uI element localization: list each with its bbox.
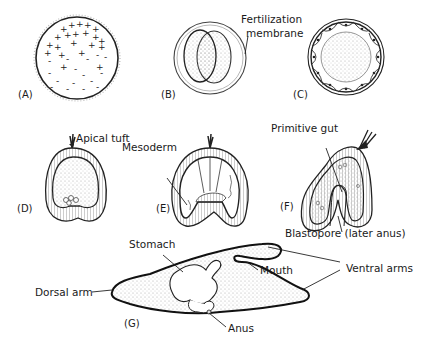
label-primitive-gut: Primitive gut: [271, 122, 338, 134]
panel-tag-a: (A): [18, 89, 33, 101]
svg-text:-: -: [82, 70, 85, 80]
embryo-development-diagram: +++++ ++++++ +++++ +++- ---- +-+ --- ---…: [0, 0, 425, 345]
svg-text:-: -: [96, 82, 99, 92]
panel-tag-f: (F): [280, 201, 294, 213]
panel-f-primitive-gut: [301, 130, 376, 232]
svg-text:+: +: [70, 38, 78, 48]
label-stomach: Stomach: [129, 238, 175, 250]
label-blastopore: Blastopore (later anus): [285, 227, 406, 239]
panel-a-egg: +++++ ++++++ +++++ +++- ---- +-+ --- ---…: [34, 15, 120, 101]
panel-c-blastula: [308, 19, 384, 95]
label-fertilization-membrane-line1: Fertilization: [241, 13, 302, 25]
label-ventral-arms: Ventral arms: [346, 262, 413, 274]
svg-text:+: +: [78, 48, 86, 58]
label-mouth: Mouth: [260, 264, 293, 276]
svg-text:-: -: [90, 76, 93, 86]
svg-text:+: +: [54, 32, 62, 42]
label-dorsal-arm: Dorsal arm: [35, 286, 93, 298]
panel-d-gastrula: [46, 134, 107, 221]
svg-text:-: -: [66, 84, 69, 94]
svg-text:+: +: [60, 62, 68, 72]
svg-text:-: -: [104, 52, 107, 62]
svg-text:+: +: [58, 50, 66, 60]
svg-text:-: -: [72, 78, 75, 88]
label-anus: Anus: [228, 322, 254, 334]
label-fertilization-membrane-line2: membrane: [246, 27, 303, 39]
panel-tag-e: (E): [156, 203, 170, 215]
svg-text:-: -: [74, 64, 77, 74]
svg-text:-: -: [50, 82, 53, 92]
panel-tag-b: (B): [161, 89, 176, 101]
svg-text:-: -: [82, 84, 85, 94]
panel-g-pluteus-larva: [92, 244, 340, 327]
svg-text:-: -: [48, 56, 51, 66]
svg-text:+: +: [88, 40, 96, 50]
label-mesoderm: Mesoderm: [122, 141, 177, 153]
svg-text:-: -: [100, 68, 103, 78]
panel-tag-d: (D): [17, 203, 33, 215]
svg-text:-: -: [56, 76, 59, 86]
svg-text:-: -: [86, 54, 89, 64]
panel-tag-g: (G): [124, 318, 140, 330]
svg-text:-: -: [96, 50, 99, 60]
panel-b-two-cell: [174, 22, 248, 94]
panel-tag-c: (C): [293, 89, 308, 101]
svg-text:+: +: [82, 28, 90, 38]
panel-e-mesoderm: [167, 134, 248, 226]
svg-text:-: -: [48, 68, 51, 78]
